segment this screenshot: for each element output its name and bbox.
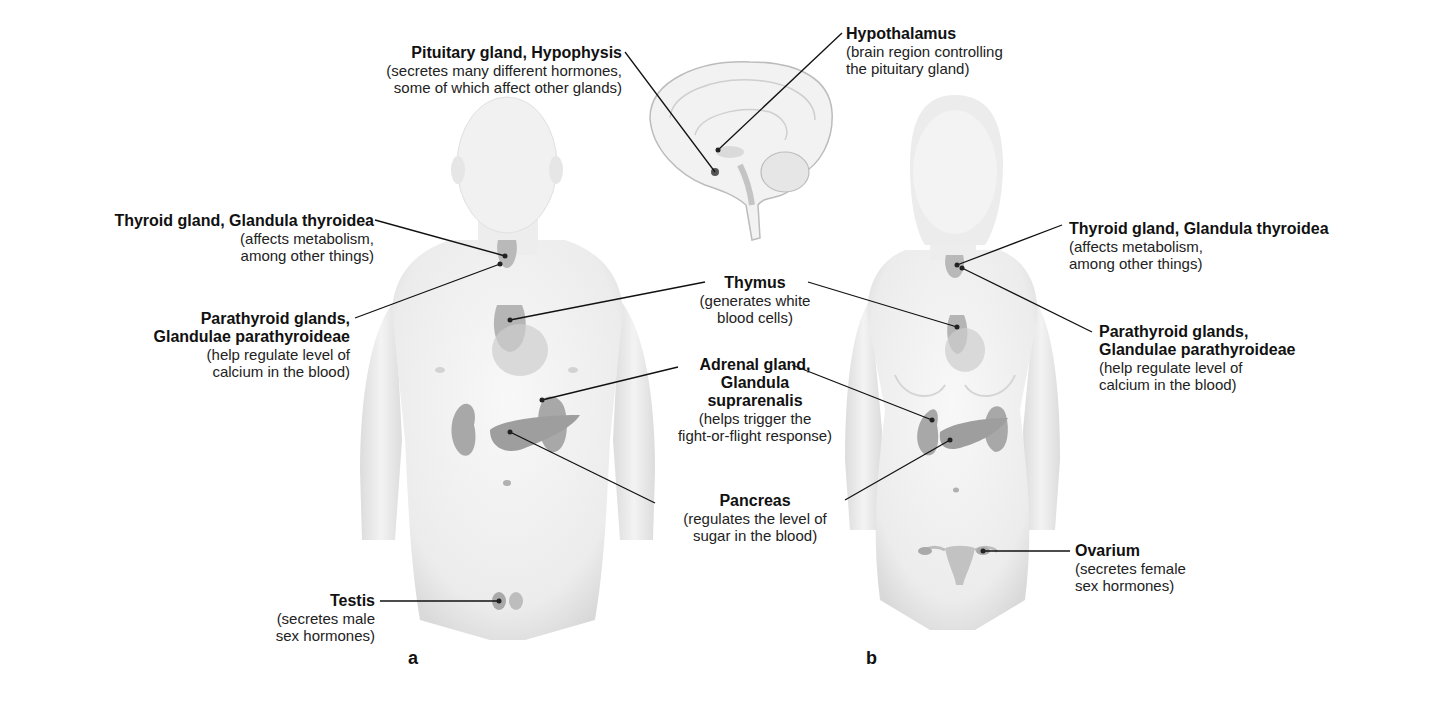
label-desc: (affects metabolism, [114, 230, 374, 247]
label-desc: (affects metabolism, [1069, 238, 1329, 255]
label-title: Adrenal gland, [655, 356, 855, 374]
label-desc: (regulates the level of [660, 510, 850, 527]
label-desc: sex hormones) [276, 627, 375, 644]
label-desc: (help regulate level of [1099, 359, 1296, 376]
male-body-illustration [360, 97, 655, 640]
label-desc: (help regulate level of [153, 346, 350, 363]
label-parathyroid-male: Parathyroid glands, Glandulae parathyroi… [153, 310, 350, 380]
label-title: Parathyroid glands, [1099, 323, 1296, 341]
label-title: Testis [276, 592, 375, 610]
label-hypothalamus: Hypothalamus (brain region controlling t… [846, 25, 1003, 77]
label-title: Hypothalamus [846, 25, 1003, 43]
label-title: suprarenalis [655, 392, 855, 410]
female-body-illustration [845, 95, 1060, 630]
label-title: Thymus [680, 274, 830, 292]
label-title: Glandulae parathyroideae [1099, 341, 1296, 359]
label-adrenal: Adrenal gland, Glandula suprarenalis (he… [655, 356, 855, 444]
brain-sagittal-illustration [650, 62, 832, 240]
label-pituitary: Pituitary gland, Hypophysis (secretes ma… [386, 44, 622, 96]
label-testis: Testis (secretes male sex hormones) [276, 592, 375, 644]
label-title: Ovarium [1075, 542, 1186, 560]
label-desc: among other things) [114, 247, 374, 264]
label-thymus: Thymus (generates white blood cells) [680, 274, 830, 326]
label-desc: (secretes female [1075, 560, 1186, 577]
label-title: Thyroid gland, Glandula thyroidea [114, 212, 374, 230]
label-desc: (secretes many different hormones, [386, 62, 622, 79]
label-ovarium: Ovarium (secretes female sex hormones) [1075, 542, 1186, 594]
label-desc: among other things) [1069, 255, 1329, 272]
label-desc: (secretes male [276, 610, 375, 627]
label-desc: fight-or-flight response) [655, 427, 855, 444]
label-desc: (generates white [680, 292, 830, 309]
label-title: Glandula [655, 374, 855, 392]
label-title: Pituitary gland, Hypophysis [386, 44, 622, 62]
label-desc: (helps trigger the [655, 410, 855, 427]
label-desc: sugar in the blood) [660, 527, 850, 544]
label-desc: blood cells) [680, 309, 830, 326]
label-title: Glandulae parathyroideae [153, 328, 350, 346]
label-pancreas: Pancreas (regulates the level of sugar i… [660, 492, 850, 544]
panel-label-a: a [408, 648, 418, 669]
label-desc: calcium in the blood) [153, 363, 350, 380]
label-title: Thyroid gland, Glandula thyroidea [1069, 220, 1329, 238]
panel-label-b: b [866, 648, 877, 669]
label-parathyroid-female: Parathyroid glands, Glandulae parathyroi… [1099, 323, 1296, 393]
label-desc: sex hormones) [1075, 577, 1186, 594]
label-title: Pancreas [660, 492, 850, 510]
label-title: Parathyroid glands, [153, 310, 350, 328]
label-thyroid-male: Thyroid gland, Glandula thyroidea (affec… [114, 212, 374, 264]
label-desc: some of which affect other glands) [386, 79, 622, 96]
label-desc: the pituitary gland) [846, 60, 1003, 77]
label-thyroid-female: Thyroid gland, Glandula thyroidea (affec… [1069, 220, 1329, 272]
label-desc: (brain region controlling [846, 43, 1003, 60]
label-desc: calcium in the blood) [1099, 376, 1296, 393]
